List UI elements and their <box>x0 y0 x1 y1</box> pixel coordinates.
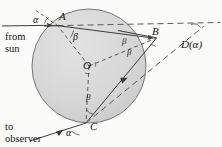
exit-ray-arrowhead <box>56 130 64 137</box>
angle-label-beta-lower-B: β <box>127 48 131 57</box>
angle-label-beta-at-A: β <box>73 32 78 42</box>
angle-label-alpha-exit: α <box>66 128 71 138</box>
angle-label-alpha-incident: α <box>33 15 38 25</box>
beta-arc-lower-at-B <box>151 45 156 47</box>
rainbow-geometry-figure: A B C O α β β β β α D(α) from sun to obs… <box>0 0 222 147</box>
point-label-B: B <box>152 26 159 37</box>
deviation-angle-label: D(α) <box>181 39 202 50</box>
point-label-C: C <box>90 121 97 132</box>
angle-label-beta-at-C: β <box>86 93 90 102</box>
to-observer-caption-line1: to <box>5 122 13 133</box>
point-label-A: A <box>59 11 66 22</box>
angle-label-beta-upper-B: β <box>122 37 126 46</box>
point-label-O: O <box>83 60 91 71</box>
deviation-angle-arc <box>191 24 201 28</box>
to-observer-caption-line2: observer <box>5 134 41 145</box>
alpha-arc-at-C <box>72 132 80 136</box>
from-sun-caption-line1: from <box>5 32 25 43</box>
from-sun-caption-line2: sun <box>5 44 20 55</box>
